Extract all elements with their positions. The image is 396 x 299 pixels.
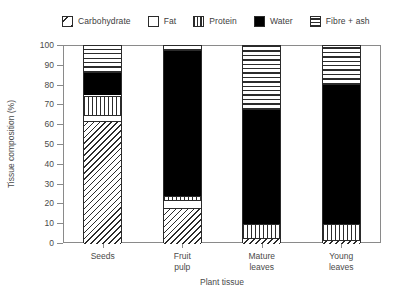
segment-water [323,84,360,225]
legend-item-fibre-ash: Fibre + ash [310,16,370,27]
y-axis-tick [57,104,63,105]
segment-fat [84,115,121,121]
y-axis-tick-label: 90 [45,60,54,70]
legend-label-water: Water [270,16,293,26]
y-axis-tick [57,45,63,46]
y-axis-tick [57,243,63,244]
y-axis-tick [57,184,63,185]
chart-legend: Carbohydrate Fat Protein Water Fibre + a… [62,12,382,30]
y-axis-tick-label: 40 [45,159,54,169]
segment-divider [84,121,121,122]
segment-divider [323,224,360,225]
segment-protein [243,224,280,238]
legend-label-fibre-ash: Fibre + ash [326,16,370,26]
segment-divider [164,50,201,51]
y-axis-tick [57,223,63,224]
segment-divider [84,115,121,116]
y-axis-tick [57,144,63,145]
x-axis-tick-label: Mature leaves [249,251,275,272]
y-axis-tick-label: 0 [49,238,54,248]
y-axis-tick [57,85,63,86]
segment-fibre-ash [164,46,201,50]
x-axis-tick-label: Seeds [91,251,115,262]
segment-fibre-ash [323,46,360,84]
segment-fibre-ash [243,46,280,109]
segment-divider [243,224,280,225]
y-axis-tick [57,65,63,66]
segment-water [164,50,201,197]
segment-divider [323,84,360,85]
water-swatch-icon [254,16,265,27]
chart-figure: Carbohydrate Fat Protein Water Fibre + a… [0,0,396,299]
bar-mature-leaves[interactable] [242,45,281,243]
fibre-ash-swatch-icon [310,16,321,27]
segment-protein [323,224,360,240]
y-axis-tick [57,203,63,204]
legend-label-fat: Fat [164,16,177,26]
y-axis-tick [57,164,63,165]
legend-label-protein: Protein [209,16,237,26]
x-axis-title: Plant tissue [200,277,244,287]
legend-label-carbohydrate: Carbohydrate [78,16,131,26]
x-axis-tick-label: Fruit pulp [174,251,191,272]
y-axis-tick-label: 70 [45,99,54,109]
segment-carbohydrate [164,208,201,244]
segment-carbohydrate [323,240,360,244]
segment-divider [243,109,280,110]
y-axis-tick-label: 30 [45,179,54,189]
segment-water [84,72,121,96]
y-axis-tick-label: 80 [45,80,54,90]
legend-item-water: Water [254,16,293,27]
segment-divider [164,208,201,209]
x-axis-tick-label: Young leaves [329,251,354,272]
segment-divider [84,96,121,97]
y-axis-tick-label: 100 [40,40,54,50]
segment-protein [84,96,121,116]
y-axis-tick-label: 50 [45,139,54,149]
segment-water [243,109,280,224]
y-axis-tick-label: 10 [45,218,54,228]
segment-fat [164,200,201,208]
segment-divider [243,238,280,239]
y-axis-tick-label: 60 [45,119,54,129]
plot-area: 0102030405060708090100SeedsFruit pulpMat… [63,45,381,243]
segment-carbohydrate [84,121,121,244]
segment-divider [164,196,201,197]
bar-young-leaves[interactable] [322,45,361,243]
legend-item-protein: Protein [193,16,237,27]
y-axis-tick-label: 20 [45,198,54,208]
segment-divider [323,240,360,241]
segment-protein [164,196,201,200]
carbohydrate-swatch-icon [62,16,73,27]
legend-item-fat: Fat [148,16,177,27]
bar-seeds[interactable] [83,45,122,243]
fat-swatch-icon [148,16,159,27]
segment-divider [164,200,201,201]
legend-item-carbohydrate: Carbohydrate [62,16,131,27]
bar-fruit-pulp[interactable] [163,45,202,243]
segment-divider [84,72,121,73]
segment-carbohydrate [243,238,280,244]
y-axis-title: Tissue composition (%) [6,100,16,188]
y-axis-title-wrap: Tissue composition (%) [4,45,18,243]
y-axis-tick [57,124,63,125]
segment-fibre-ash [84,46,121,72]
protein-swatch-icon [193,16,204,27]
